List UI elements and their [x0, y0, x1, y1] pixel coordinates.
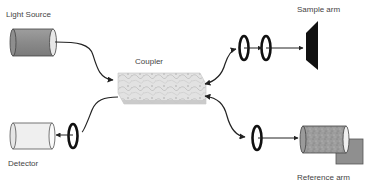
detector-lens: [69, 124, 78, 148]
coupler-label: Coupler: [135, 57, 163, 66]
coupler: Coupler: [118, 57, 206, 104]
fiber-coupler-to-sample: [205, 49, 236, 84]
fiber-coupler-to-reference: [205, 96, 245, 137]
fiber-source-to-coupler: [55, 42, 113, 80]
detector: Detector: [8, 123, 78, 168]
reference-arm: Reference arm: [253, 126, 364, 182]
light-source-body: [13, 29, 53, 56]
sample-arm-label: Sample arm: [297, 5, 340, 14]
reference-body: [303, 126, 346, 153]
reference-back: [300, 126, 306, 153]
sample-object: [306, 21, 318, 70]
coupler-body: [118, 73, 206, 104]
detector-aperture: [49, 123, 55, 149]
light-source-label: Light Source: [6, 10, 51, 19]
reference-aperture: [343, 126, 349, 153]
detector-label: Detector: [8, 159, 39, 168]
oct-diagram: Light Source Coupler Sample arm Referenc…: [0, 0, 369, 182]
light-source: Light Source: [6, 10, 57, 56]
reference-arm-label: Reference arm: [297, 173, 350, 182]
fiber-coupler-to-detector: [82, 97, 118, 132]
detector-body: [13, 123, 52, 149]
detector-back: [10, 123, 16, 149]
light-source-back: [10, 29, 16, 56]
sample-arm: Sample arm: [240, 5, 341, 70]
